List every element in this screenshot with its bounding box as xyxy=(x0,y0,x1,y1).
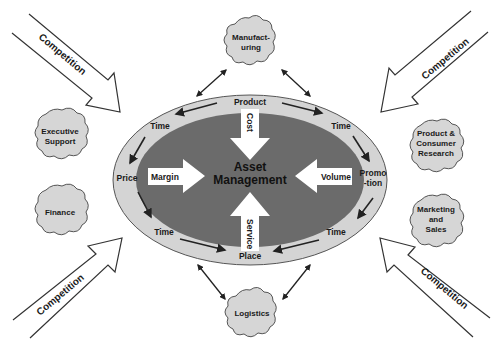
inward-arrow-label-cost: Cost xyxy=(245,113,255,132)
connector-arrow-logistics-left xyxy=(198,265,225,299)
ring-label-place: Place xyxy=(239,251,261,261)
cloud-manufacturing: Manufact- uring xyxy=(224,15,275,64)
ring-label-promotion-line1: Promo xyxy=(360,168,387,178)
cloud-label: Research xyxy=(418,149,454,158)
ring-label-time-bottom-right: Time xyxy=(326,227,346,237)
connector-arrow-logistics-right xyxy=(283,265,310,299)
competition-arrow-bottom-left: Competition xyxy=(13,238,122,338)
cloud-label: Product & xyxy=(417,129,455,138)
ring-label-price: Price xyxy=(117,173,138,183)
cloud-label: and xyxy=(429,215,443,224)
connector-arrow-manufacturing-left xyxy=(197,70,226,96)
inward-arrow-label-margin: Margin xyxy=(151,172,179,182)
cloud-label: Sales xyxy=(426,225,447,234)
cloud-label: Logistics xyxy=(234,309,270,318)
cloud-label: Marketing xyxy=(417,205,455,214)
cloud-executive-support: Executive Support xyxy=(35,108,88,159)
center-label-line2: Management xyxy=(213,173,286,187)
competition-arrow-top-right: Competition xyxy=(381,11,488,112)
ring-label-promotion-line2: -tion xyxy=(364,178,382,188)
center-label-line1: Asset xyxy=(234,160,267,174)
cloud-label: Executive xyxy=(41,127,79,136)
cloud-marketing-sales: Marketing and Sales xyxy=(410,194,464,247)
inward-arrow-label-service: Service xyxy=(245,219,255,250)
cloud-product-consumer-research: Product & Consumer Research xyxy=(410,119,464,172)
inward-arrow-label-volume: Volume xyxy=(321,172,351,182)
ring-label-time-top-right: Time xyxy=(331,121,351,131)
cloud-label: Finance xyxy=(45,208,76,217)
ring-label-time-top-left: Time xyxy=(150,121,170,131)
cloud-label: uring xyxy=(241,43,261,52)
cloud-label: Consumer xyxy=(416,139,456,148)
cloud-label: Manufact- xyxy=(232,33,270,42)
cloud-label: Support xyxy=(45,137,76,146)
ring-label-product: Product xyxy=(234,97,266,107)
asset-management-diagram: Competition Competition Competition Comp… xyxy=(0,0,500,349)
cloud-finance: Finance xyxy=(35,184,88,235)
cloud-logistics: Logistics xyxy=(225,287,276,336)
ring-label-time-bottom-left: Time xyxy=(154,227,174,237)
competition-arrow-top-left: Competition xyxy=(12,14,120,112)
connector-arrow-manufacturing-right xyxy=(282,70,310,96)
competition-arrow-bottom-right: Competition xyxy=(380,238,490,337)
